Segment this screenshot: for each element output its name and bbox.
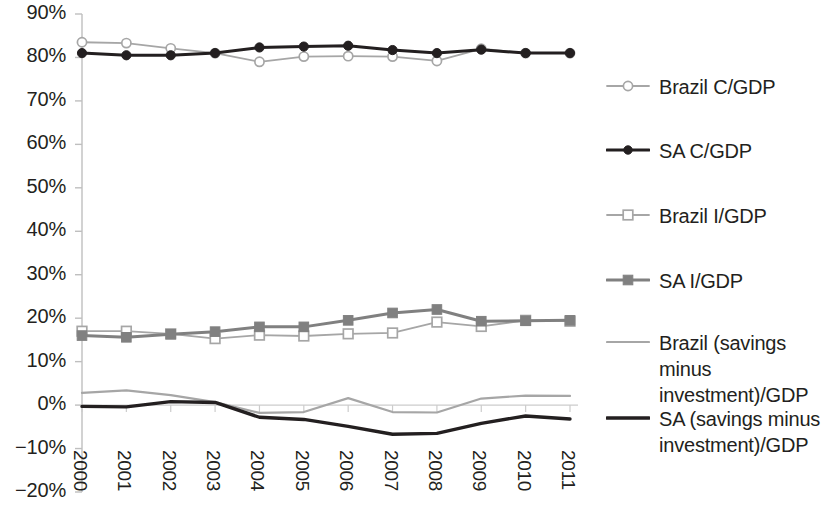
x-axis-tick-label: 2005 xyxy=(291,450,313,491)
legend-marker xyxy=(623,275,633,285)
x-axis-tick-label: 2000 xyxy=(69,450,91,491)
data-point xyxy=(210,327,220,337)
data-point xyxy=(388,328,398,338)
data-point xyxy=(565,316,575,326)
y-axis-tick-label: 50% xyxy=(0,175,66,198)
data-point xyxy=(299,322,309,332)
legend-item[interactable]: Brazil I/GDP xyxy=(606,203,767,229)
legend-item[interactable]: Brazil C/GDP xyxy=(606,74,776,100)
x-axis-tick-label: 2007 xyxy=(380,450,402,491)
data-point xyxy=(344,52,353,61)
data-point xyxy=(255,322,265,332)
data-point xyxy=(388,45,397,54)
circle-filled-marker xyxy=(606,139,650,161)
data-point xyxy=(521,49,530,58)
data-point xyxy=(122,51,131,60)
data-point xyxy=(255,57,264,66)
data-point xyxy=(210,49,219,58)
legend-marker xyxy=(624,146,632,154)
y-axis-tick-label: −10% xyxy=(0,436,66,459)
y-axis-tick-label: −20% xyxy=(0,479,66,502)
data-point xyxy=(299,331,309,341)
y-axis-tick-label: 80% xyxy=(0,44,66,67)
legend-item[interactable]: SA I/GDP xyxy=(606,268,743,294)
legend-item[interactable]: SA (savings minus investment)/GDP xyxy=(606,406,820,458)
data-point xyxy=(166,329,176,339)
data-point xyxy=(343,316,353,326)
legend-item[interactable]: SA C/GDP xyxy=(606,138,752,164)
legend-item[interactable]: Brazil (savings minus investment)/GDP xyxy=(606,330,835,408)
y-axis-tick-label: 20% xyxy=(0,305,66,328)
legend-label: Brazil C/GDP xyxy=(659,74,776,100)
x-axis-tick-label: 2010 xyxy=(513,450,535,491)
line-dark-marker xyxy=(606,407,650,429)
data-point xyxy=(521,316,531,326)
data-point xyxy=(77,38,86,47)
y-axis-tick-label: 90% xyxy=(0,1,66,24)
data-point xyxy=(299,42,308,51)
series-brazil-savings-minus-investment-gdp xyxy=(82,390,570,413)
series-line xyxy=(82,402,570,435)
data-point xyxy=(344,41,353,50)
square-open-marker xyxy=(606,204,650,226)
legend-label: Brazil I/GDP xyxy=(659,203,767,229)
data-point xyxy=(432,49,441,58)
x-axis-tick-label: 2004 xyxy=(246,450,268,491)
y-axis-tick-label: 60% xyxy=(0,131,66,154)
data-point xyxy=(565,49,574,58)
legend-label: SA (savings minus investment)/GDP xyxy=(659,406,820,458)
y-axis-tick-label: 70% xyxy=(0,88,66,111)
data-point xyxy=(122,333,132,343)
y-axis-tick-label: 0% xyxy=(0,392,66,415)
x-axis-tick-label: 2008 xyxy=(424,450,446,491)
series-line xyxy=(82,390,570,413)
x-axis-tick-label: 2009 xyxy=(468,450,490,491)
line-light-marker xyxy=(606,331,650,353)
data-point xyxy=(388,308,398,318)
data-point xyxy=(299,52,308,61)
data-point xyxy=(77,49,86,58)
square-filled-marker xyxy=(606,269,650,291)
data-point xyxy=(122,39,131,48)
data-point xyxy=(476,316,486,326)
data-point xyxy=(432,317,442,327)
x-axis-tick-label: 2001 xyxy=(113,450,135,491)
data-point xyxy=(166,51,175,60)
data-point xyxy=(477,45,486,54)
legend-marker xyxy=(623,81,632,90)
x-axis-tick-label: 2011 xyxy=(557,450,579,490)
data-point xyxy=(432,305,442,315)
legend-label: Brazil (savings minus investment)/GDP xyxy=(659,330,835,408)
y-axis-tick-label: 10% xyxy=(0,349,66,372)
x-axis-tick-label: 2006 xyxy=(335,450,357,491)
legend-label: SA I/GDP xyxy=(659,268,743,294)
legend-label: SA C/GDP xyxy=(659,138,752,164)
series-sa-savings-minus-investment-gdp xyxy=(82,402,570,435)
x-axis-tick-label: 2002 xyxy=(158,450,180,491)
data-point xyxy=(343,329,353,339)
chart-container: 90%80%70%60%50%40%30%20%10%0%−10%−20%200… xyxy=(0,0,835,517)
y-axis-tick-label: 40% xyxy=(0,218,66,241)
data-point xyxy=(255,43,264,52)
y-axis-tick-label: 30% xyxy=(0,262,66,285)
data-point xyxy=(77,331,87,341)
legend-marker xyxy=(623,210,633,220)
x-axis-tick-label: 2003 xyxy=(202,450,224,491)
circle-open-marker xyxy=(606,75,650,97)
